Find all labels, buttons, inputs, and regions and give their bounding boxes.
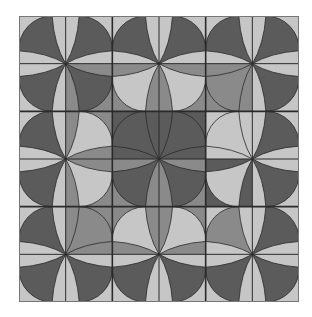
quilt-pattern <box>19 16 299 302</box>
